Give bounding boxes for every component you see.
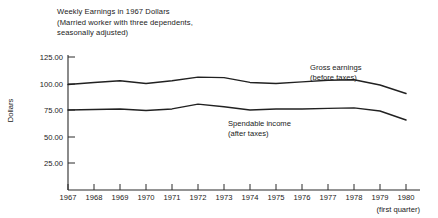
series-annotation-spendable-income: Spendable income (after taxes) xyxy=(228,119,291,138)
x-axis: 1967 1968 1969 1970 1971 1972 1973 1974 … xyxy=(60,184,421,214)
x-tick-label-1972: 1972 xyxy=(190,193,207,202)
y-tick-label-125: 125.00 xyxy=(40,53,63,62)
x-tick-label-1969: 1969 xyxy=(112,193,129,202)
x-tick-label-1968: 1968 xyxy=(86,193,103,202)
series-annotation-gross-earnings: Gross earnings (before taxes) xyxy=(310,63,362,82)
x-tick-label-1975: 1975 xyxy=(268,193,285,202)
chart-figure: Weekly Earnings in 1967 Dollars (Married… xyxy=(0,0,438,218)
x-axis-note: (first quarter) xyxy=(377,205,421,214)
series-line-spendable-income xyxy=(68,104,406,120)
x-tick-label-1976: 1976 xyxy=(294,193,311,202)
y-tick-label-75: 75.00 xyxy=(44,106,63,115)
x-tick-label-1974: 1974 xyxy=(242,193,259,202)
series-label-gross-earnings-line-2: (before taxes) xyxy=(310,73,357,82)
x-tick-label-1971: 1971 xyxy=(164,193,181,202)
x-tick-label-1978: 1978 xyxy=(346,193,363,202)
x-tick-label-1973: 1973 xyxy=(216,193,233,202)
plot-area: 125.00 100.00 75.00 50.00 25.00 xyxy=(0,0,438,218)
x-tick-label-1967: 1967 xyxy=(60,193,77,202)
x-tick-label-1980: 1980 xyxy=(398,193,415,202)
x-tick-label-1970: 1970 xyxy=(138,193,155,202)
x-tick-label-1977: 1977 xyxy=(320,193,337,202)
x-tick-label-1979: 1979 xyxy=(372,193,389,202)
x-tick-marks xyxy=(68,184,406,190)
series-label-spendable-income-line-2: (after taxes) xyxy=(228,129,269,138)
y-axis: 125.00 100.00 75.00 50.00 25.00 xyxy=(40,53,75,190)
y-tick-label-50: 50.00 xyxy=(44,133,63,142)
data-series-group xyxy=(68,77,406,120)
series-label-spendable-income-line-1: Spendable income xyxy=(228,119,291,128)
y-tick-label-100: 100.00 xyxy=(40,80,63,89)
y-tick-label-25: 25.00 xyxy=(44,159,63,168)
series-label-gross-earnings-line-1: Gross earnings xyxy=(310,63,362,72)
